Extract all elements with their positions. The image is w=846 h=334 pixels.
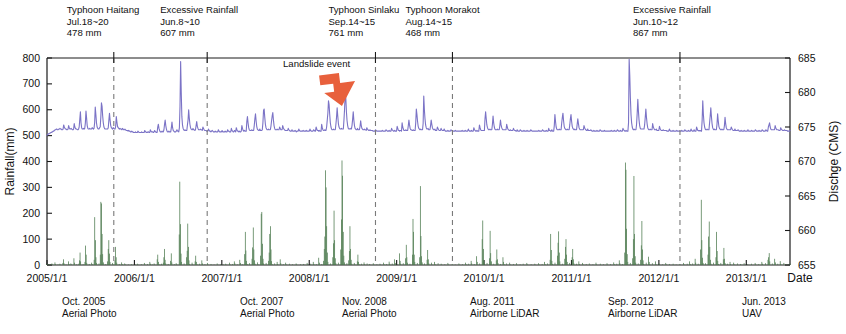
y-axis-right-tick-label: 665 <box>798 190 816 202</box>
rainfall-bar <box>131 264 132 265</box>
rainfall-bar <box>635 263 636 265</box>
rainfall-bar <box>316 264 317 265</box>
rainfall-bar <box>596 264 597 265</box>
rainfall-bar <box>247 264 248 265</box>
rainfall-bar <box>152 264 153 265</box>
rainfall-bar <box>579 264 580 265</box>
rainfall-bar <box>395 263 396 265</box>
rainfall-bar <box>347 263 348 265</box>
rainfall-bar <box>150 264 151 265</box>
rainfall-bar <box>765 263 766 265</box>
rainfall-bar <box>338 263 339 265</box>
rainfall-bar <box>755 264 756 265</box>
rainfall-bar <box>516 263 517 265</box>
rainfall-bar <box>504 264 505 265</box>
rainfall-bar <box>92 264 93 265</box>
landslide-event-annotation: Landslide event <box>283 58 350 69</box>
rainfall-bar <box>468 264 469 265</box>
rainfall-bar <box>751 264 752 265</box>
y-axis-right-tick-label: 685 <box>798 52 816 64</box>
rainfall-bar <box>389 264 390 265</box>
rainfall-bar <box>103 262 104 265</box>
rainfall-bar <box>510 264 511 265</box>
rainfall-bar <box>400 264 401 265</box>
x-axis-tick-label: 2012/1/1 <box>638 272 679 284</box>
rainfall-bar <box>506 263 507 265</box>
rainfall-bar <box>336 263 337 265</box>
rainfall-bar <box>125 264 126 265</box>
rainfall-bar <box>105 264 106 265</box>
rainfall-bar <box>619 263 620 265</box>
rainfall-bar <box>790 263 791 265</box>
rainfall-bar <box>444 264 445 265</box>
rainfall-bar <box>313 264 314 265</box>
y-axis-left-title: Rainfall(mm) <box>3 127 17 195</box>
rainfall-bar <box>319 263 320 265</box>
y-axis-left-tick-label: 0 <box>34 259 40 271</box>
rainfall-bar <box>772 263 773 265</box>
y-axis-left-tick-label: 100 <box>22 233 40 245</box>
rainfall-bar <box>542 264 543 265</box>
y-axis-left-tick-label: 200 <box>22 207 40 219</box>
event-date: Jun.10~12 <box>633 16 678 27</box>
survey-label-nov2008: Nov. 2008Aerial Photo <box>342 296 396 320</box>
rainfall-bar <box>630 263 631 265</box>
rainfall-bar <box>116 263 117 265</box>
rainfall-bar <box>367 263 368 265</box>
event-name: Excessive Rainfall <box>633 4 711 15</box>
event-label-excessive-rainfall-2012: Excessive RainfallJun.10~12867 mm <box>633 4 711 39</box>
rainfall-bar <box>652 263 653 265</box>
rainfall-bar <box>300 264 301 265</box>
y-axis-right-tick-label: 670 <box>798 155 816 167</box>
rainfall-bar <box>560 261 561 265</box>
rainfall-bar-series <box>47 160 791 265</box>
rainfall-bar <box>705 263 706 265</box>
rainfall-bar <box>583 264 584 265</box>
rainfall-bar <box>359 264 360 265</box>
rainfall-bar <box>292 264 293 265</box>
rainfall-bar <box>656 264 657 265</box>
rainfall-bar <box>113 264 114 265</box>
rainfall-bar <box>96 263 97 265</box>
survey-method: Aerial Photo <box>62 308 116 319</box>
rainfall-bar <box>147 264 148 265</box>
rainfall-bar <box>545 264 546 265</box>
rainfall-bar <box>690 264 691 265</box>
rainfall-bar <box>286 264 287 265</box>
rainfall-bar <box>448 264 449 265</box>
rainfall-bar <box>328 262 329 265</box>
event-marker-lines <box>114 52 680 265</box>
rainfall-bar <box>310 264 311 265</box>
rainfall-bar <box>622 264 623 265</box>
event-name: Excessive Rainfall <box>160 4 238 15</box>
rainfall-bar <box>237 264 238 265</box>
rainfall-bar <box>627 262 628 265</box>
rainfall-bar <box>435 264 436 265</box>
rainfall-bar <box>258 264 259 265</box>
y-axis-right-tick-label: 655 <box>798 259 816 271</box>
rainfall-bar <box>74 263 75 265</box>
rainfall-bar <box>758 264 759 265</box>
event-date: Aug.14~15 <box>405 16 452 27</box>
rainfall-bar <box>727 264 728 265</box>
survey-date: Nov. 2008 <box>342 296 387 307</box>
rainfall-bar <box>86 263 87 265</box>
event-rainfall: 478 mm <box>67 27 102 38</box>
landslide-arrow-glyph <box>319 71 358 108</box>
rainfall-bar <box>176 264 177 265</box>
survey-date: Aug. 2011 <box>470 296 515 307</box>
rainfall-bar <box>354 264 355 265</box>
rainfall-bar <box>603 264 604 265</box>
rainfall-bar <box>547 263 548 265</box>
rainfall-bar <box>787 264 788 265</box>
rainfall-bar <box>263 263 264 265</box>
survey-label-aug2011: Aug. 2011Airborne LiDAR <box>470 296 539 320</box>
rainfall-bar <box>643 264 644 265</box>
rainfall-bar <box>205 264 206 265</box>
rainfall-bar <box>569 263 570 265</box>
rainfall-bar <box>471 263 472 265</box>
rainfall-bar <box>484 264 485 265</box>
rainfall-bar <box>676 264 677 265</box>
rainfall-bar <box>392 263 393 265</box>
rainfall-bar <box>307 264 308 265</box>
